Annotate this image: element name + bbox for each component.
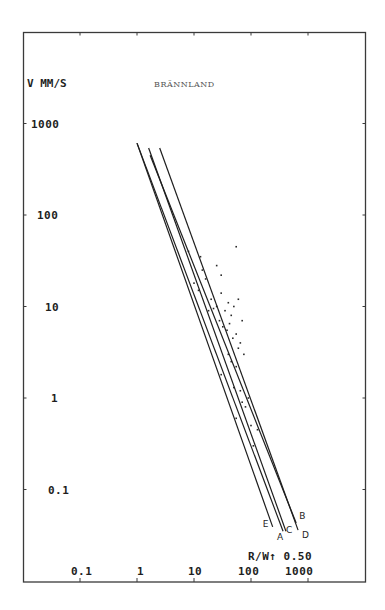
fit-line-c [149, 148, 286, 531]
fit-line-a [137, 143, 283, 531]
data-point [241, 401, 243, 403]
data-point [193, 282, 195, 284]
data-point [240, 390, 242, 392]
y-tick-label: 100 [37, 209, 58, 222]
fit-line-d [160, 148, 298, 530]
data-point [230, 315, 232, 317]
line-label-e: E [263, 519, 269, 529]
x-tick-label: 1 [137, 565, 144, 578]
data-point [243, 354, 245, 356]
data-point [245, 406, 247, 408]
line-label-b: B [299, 511, 305, 521]
y-tick-label: 10 [45, 301, 59, 314]
data-point [202, 269, 204, 271]
data-point [220, 274, 222, 276]
line-label-c: C [286, 525, 292, 535]
x-tick-label: 10 [188, 565, 202, 578]
data-point [250, 425, 252, 427]
data-point [235, 417, 237, 419]
data-point [200, 256, 202, 258]
line-label-a: A [277, 532, 284, 542]
fit-lines [137, 143, 298, 531]
data-point [210, 298, 212, 300]
data-point [241, 320, 243, 322]
x-tick-label: 0.1 [71, 565, 92, 578]
data-point [219, 320, 221, 322]
x-tick-label: 1000 [285, 565, 314, 578]
data-point [229, 323, 231, 325]
fit-line-b [150, 155, 296, 523]
data-point [238, 347, 240, 349]
data-point [216, 265, 218, 267]
data-point [222, 326, 224, 328]
x-tick-labels: 0.11101001000 [71, 565, 314, 578]
data-point [233, 306, 235, 308]
y-axis-label: V MM/S [27, 77, 67, 90]
line-labels: ABCDE [263, 511, 309, 542]
data-point [235, 246, 237, 248]
x-tick-label: 100 [238, 565, 259, 578]
data-point [238, 298, 240, 300]
line-label-d: D [302, 530, 309, 540]
data-point [240, 342, 242, 344]
data-point [232, 337, 234, 339]
y-tick-label: 1000 [31, 118, 60, 131]
fit-line-e [137, 143, 273, 527]
data-point [220, 374, 222, 376]
data-point [235, 366, 237, 368]
data-point [220, 292, 222, 294]
data-point [257, 429, 259, 431]
data-point [253, 445, 255, 447]
y-tick-label: 1 [51, 392, 58, 405]
data-point [224, 310, 226, 312]
data-point [208, 310, 210, 312]
data-point [235, 333, 237, 335]
data-point [205, 278, 207, 280]
data-point [213, 308, 215, 310]
chart-title: BRÄNNLAND [154, 80, 215, 89]
x-axis-label: R/W↑ 0.50 [248, 550, 312, 563]
y-tick-label: 0.1 [48, 484, 69, 497]
chart: V MM/S BRÄNNLAND 10001001010.1 0.1110100… [0, 0, 385, 610]
data-point [228, 302, 230, 304]
y-tick-labels: 10001001010.1 [31, 118, 69, 497]
data-point [248, 397, 250, 399]
